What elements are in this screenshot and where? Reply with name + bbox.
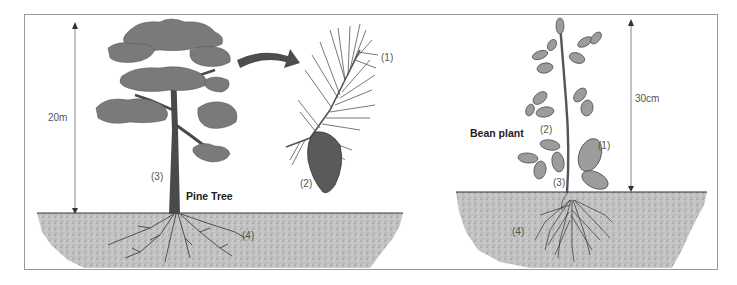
pine-height-arrow — [72, 22, 78, 214]
bean-plant-title: Bean plant — [470, 127, 524, 139]
bean-part-2-label: (2) — [540, 124, 552, 135]
pine-height-label: 20m — [48, 112, 67, 123]
pine-part-4-label: (4) — [242, 230, 254, 241]
bean-height-label: 30cm — [635, 93, 659, 104]
pine-soil — [37, 213, 403, 268]
pine-part-2-label: (2) — [300, 178, 312, 189]
pine-foliage — [96, 19, 237, 162]
bean-leaves — [518, 18, 611, 193]
pine-part-3-label: (3) — [151, 171, 163, 182]
pine-tree-title: Pine Tree — [186, 190, 233, 202]
bean-part-1-label: (1) — [598, 140, 610, 151]
bean-part-3-label: (3) — [553, 177, 565, 188]
zoom-arrow — [237, 49, 300, 68]
pine-part-1-label: (1) — [381, 52, 393, 63]
bean-height-arrow — [628, 19, 634, 192]
plant-comparison-illustration — [0, 0, 737, 285]
pine-cone — [308, 132, 342, 193]
bean-part-4-label: (4) — [512, 226, 524, 237]
